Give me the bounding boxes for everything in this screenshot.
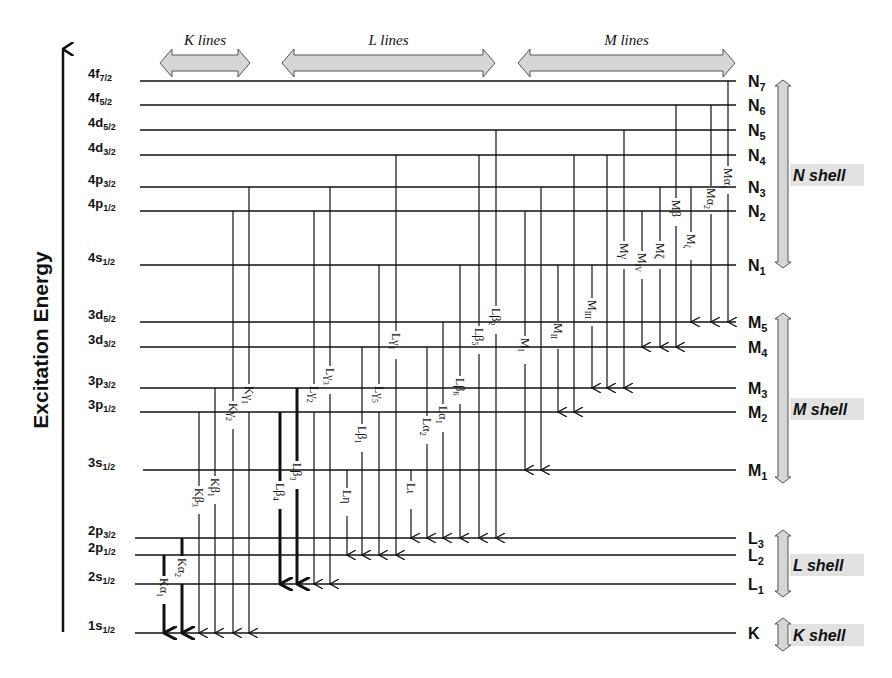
transition-MI: MI <box>516 211 532 470</box>
transition-label: Mα1 <box>719 168 735 189</box>
vertical-double-arrow-icon <box>775 80 791 268</box>
subshell-label: N4 <box>748 147 767 167</box>
orbital-label: 1s1/2 <box>88 618 115 635</box>
subshell-label: M5 <box>748 314 767 334</box>
transition-Mβ: Mβ <box>669 105 683 347</box>
transition-Lγ5: Lγ5 <box>370 265 386 555</box>
group-arrow-1: L lines <box>282 32 495 77</box>
vertical-double-arrow-icon <box>775 530 791 597</box>
transition-Lι: Lι <box>404 470 418 538</box>
transition-label: Kγ2 <box>224 403 240 421</box>
transition-Mα1: Mα1 <box>719 81 735 322</box>
level-2s12: 2s1/2L1 <box>88 569 764 596</box>
shell-brackets: N shellM shellL shellK shell <box>775 80 864 651</box>
shell-m-shell: M shell <box>775 313 864 483</box>
subshell-label: N7 <box>748 73 766 93</box>
level-1s12: 1s1/2K <box>88 618 760 642</box>
transition-label: MIII <box>583 300 599 319</box>
transition-label: Mζ <box>653 243 667 259</box>
level-2p32: 2p3/2L3 <box>88 523 764 550</box>
transition-label: Mβ <box>669 200 683 217</box>
transition-label: Lγ3 <box>321 368 337 385</box>
transition-label: Kβ3 <box>190 488 206 507</box>
vertical-double-arrow-icon <box>775 313 791 483</box>
transition-label: Lβ3 <box>288 463 304 480</box>
transition-Kγ2: Kγ2 <box>224 211 240 633</box>
group-label: K lines <box>183 32 226 48</box>
transition-label: Lβ6 <box>451 378 467 395</box>
subshell-label: N5 <box>748 122 766 142</box>
level-3p32: 3p3/2M3 <box>88 373 767 400</box>
transition-label: Mγ <box>617 243 631 260</box>
transition-Kγ1: Kγ1 <box>240 187 256 633</box>
transition-label: Lβ4 <box>271 483 287 500</box>
transition-label: MIV <box>633 253 649 272</box>
level-3d52: 3d5/2M5 <box>88 307 767 334</box>
transition-label: Lβ1 <box>353 426 369 443</box>
orbital-label: 2s1/2 <box>88 569 115 586</box>
transition-label: Lγ2 <box>305 386 321 403</box>
subshell-label: M3 <box>748 380 767 400</box>
transition-label: Kγ1 <box>240 386 256 404</box>
transition-label: Mζ <box>682 234 698 249</box>
transition-Lβ2: Lβ2 <box>487 130 503 538</box>
subshell-label: M1 <box>748 462 767 482</box>
transition-Lγ3: Lγ3 <box>321 187 337 584</box>
shell-name: L shell <box>793 557 844 574</box>
subshell-label: N2 <box>748 203 766 223</box>
transition-Lγ2: Lγ2 <box>305 211 321 584</box>
energy-axis: Excitation Energy <box>29 49 63 632</box>
subshell-label: M4 <box>748 339 768 359</box>
transition-Mγ: Mγ <box>617 130 631 388</box>
level-4d52: 4d5/2N5 <box>88 115 766 142</box>
orbital-label: 4f5/2 <box>88 90 112 107</box>
transition-Lγ1: Lγ1 <box>387 155 403 555</box>
orbital-label: 3p1/2 <box>88 397 116 414</box>
shell-name: K shell <box>793 627 846 644</box>
transition-label: Lγ5 <box>370 386 386 403</box>
transition-label: Lη <box>340 490 354 504</box>
subshell-label: N3 <box>748 179 766 199</box>
level-3s12: 3s1/2M1 <box>88 455 767 482</box>
level-4p12: 4p1/2N2 <box>88 196 766 223</box>
transition-MIV: MIV <box>633 211 649 347</box>
transition-label: Kβ1 <box>206 478 222 497</box>
level-4p32: 4p3/2N3 <box>88 172 766 199</box>
transition-label: Mα2 <box>702 188 718 209</box>
transition-Kα1: Kα1 <box>155 555 171 633</box>
orbital-label: 4d5/2 <box>88 115 116 132</box>
orbital-label: 2p3/2 <box>88 523 116 540</box>
transition-Lβ1: Lβ1 <box>353 347 369 555</box>
shell-name: M shell <box>793 401 848 418</box>
double-arrow-icon <box>282 49 495 77</box>
transition-Lα1: Lα1 <box>434 322 450 538</box>
shell-k-shell: K shell <box>775 618 864 651</box>
transition-Kα2: Kα2 <box>173 538 189 633</box>
double-arrow-icon <box>160 49 250 77</box>
group-arrow-0: K lines <box>160 32 250 77</box>
transition-Kβ1: Kβ1 <box>206 388 222 633</box>
transition-Mα2: Mα2 <box>702 105 718 322</box>
subshell-label: L2 <box>748 547 764 567</box>
line-series-group-arrows: K linesL linesM lines <box>160 32 735 77</box>
orbital-label: 4p3/2 <box>88 172 116 189</box>
transition-MIII: MIII <box>583 265 599 388</box>
orbital-label: 4s1/2 <box>88 250 115 267</box>
subshell-label: M2 <box>748 404 767 424</box>
transition-label: Lβ5 <box>470 328 486 345</box>
transition-label: Lβ2 <box>487 308 503 325</box>
transition-MII: MII <box>549 265 565 412</box>
subshell-label: K <box>748 625 760 642</box>
double-arrow-icon <box>518 49 735 77</box>
shell-name: N shell <box>793 167 846 184</box>
energy-levels: 4f7/2N74f5/2N64d5/2N54d3/2N44p3/2N34p1/2… <box>88 66 768 642</box>
transition-label: Kα1 <box>155 578 171 597</box>
orbital-label: 4p1/2 <box>88 196 116 213</box>
subshell-label: N1 <box>748 257 766 277</box>
orbital-label: 4d3/2 <box>88 140 116 157</box>
transition-label: Lι <box>404 483 418 494</box>
vertical-double-arrow-icon <box>775 618 791 651</box>
transition-Lβ6: Lβ6 <box>451 265 467 538</box>
level-4f52: 4f5/2N6 <box>88 90 766 117</box>
orbital-label: 2p1/2 <box>88 540 116 557</box>
